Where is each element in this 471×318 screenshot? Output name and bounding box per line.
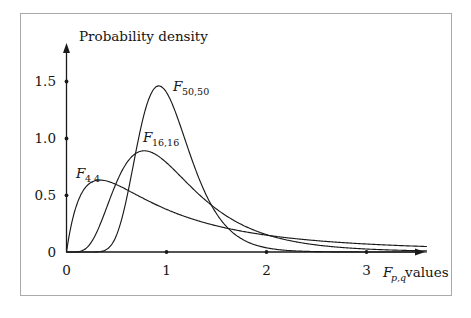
x-axis-title: F p,q values xyxy=(382,264,449,283)
y-tick-label-0_5: 0.5 xyxy=(35,187,56,203)
f-distribution-chart: 1.5 1.0 0.5 0 0 1 2 3 Probability densit… xyxy=(0,0,471,318)
x-axis-title-subscript: p,q xyxy=(391,272,406,283)
curve-label-f-50-50-subscript: 50,50 xyxy=(182,86,209,97)
axes-group xyxy=(63,43,425,256)
curve-label-f-4-4: F 4,4 xyxy=(75,165,100,184)
y-tick-dot-0_5 xyxy=(65,193,69,197)
x-tick-dot-2 xyxy=(265,250,269,254)
x-tick-labels: 0 1 2 3 xyxy=(62,262,371,278)
curve-label-f-16-16: F 16,16 xyxy=(142,129,179,148)
x-tick-label-0: 0 xyxy=(62,262,71,278)
y-tick-labels: 1.5 1.0 0.5 0 xyxy=(35,73,56,260)
curve-label-f-4-4-subscript: 4,4 xyxy=(85,173,100,184)
x-tick-label-1: 1 xyxy=(162,262,171,278)
y-axis-arrowhead xyxy=(63,43,70,53)
y-tick-dot-1_5 xyxy=(65,80,69,84)
y-tick-dot-1_0 xyxy=(65,137,69,141)
curves-group xyxy=(67,86,427,252)
y-tick-label-0: 0 xyxy=(47,244,56,260)
x-tick-dot-1 xyxy=(165,250,169,254)
x-tick-label-3: 3 xyxy=(362,262,371,278)
curve-label-f-16-16-subscript: 16,16 xyxy=(152,137,179,148)
curve-label-f-50-50: F 50,50 xyxy=(172,78,209,97)
curve-f-16-16 xyxy=(67,151,427,252)
y-axis-title: Probability density xyxy=(79,28,208,44)
x-axis-title-suffix: values xyxy=(404,264,449,280)
y-tick-label-1_0: 1.0 xyxy=(35,130,56,146)
y-tick-label-1_5: 1.5 xyxy=(35,73,56,89)
figure-root: 1.5 1.0 0.5 0 0 1 2 3 Probability densit… xyxy=(0,0,471,318)
x-tick-label-2: 2 xyxy=(262,262,271,278)
